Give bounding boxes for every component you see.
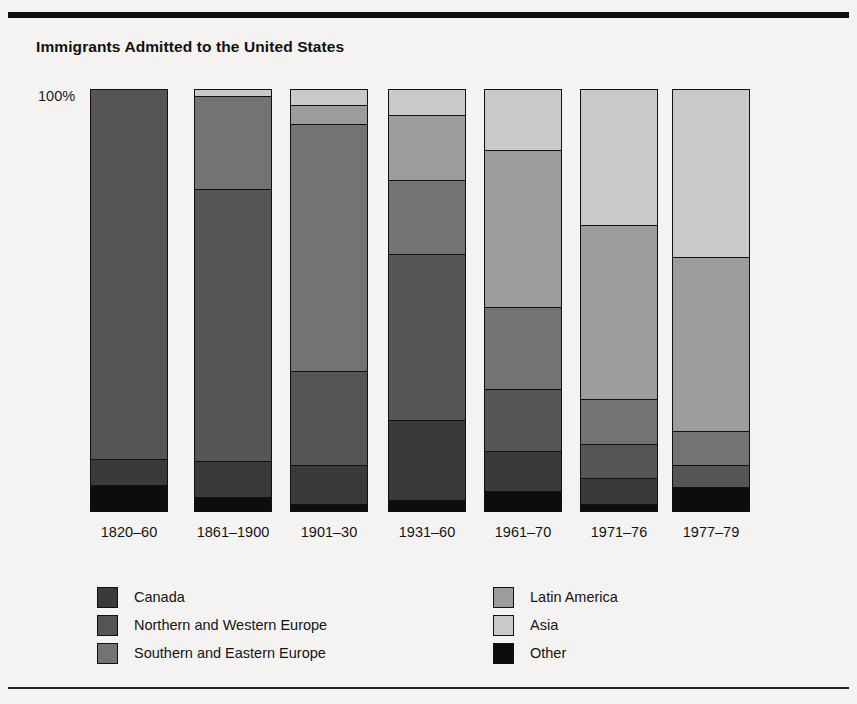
legend-swatch-other-icon (493, 643, 514, 664)
legend-item[interactable]: Other (493, 640, 618, 666)
legend-swatch-canada-icon (97, 587, 118, 608)
chart-legend: CanadaNorthern and Western EuropeSouther… (0, 0, 857, 704)
legend-item-label: Asia (530, 617, 558, 633)
legend-column-left: CanadaNorthern and Western EuropeSouther… (97, 584, 327, 668)
legend-item-label: Southern and Eastern Europe (134, 645, 326, 661)
legend-swatch-asia-icon (493, 615, 514, 636)
legend-item-label: Latin America (530, 589, 618, 605)
legend-swatch-southern-eastern-europe-icon (97, 643, 118, 664)
legend-item[interactable]: Canada (97, 584, 327, 610)
legend-item[interactable]: Southern and Eastern Europe (97, 640, 327, 666)
legend-item-label: Canada (134, 589, 185, 605)
legend-item-label: Other (530, 645, 566, 661)
legend-item[interactable]: Northern and Western Europe (97, 612, 327, 638)
legend-swatch-northern-western-europe-icon (97, 615, 118, 636)
legend-item[interactable]: Asia (493, 612, 618, 638)
figure-panel: Immigrants Admitted to the United States… (0, 0, 857, 704)
legend-item[interactable]: Latin America (493, 584, 618, 610)
legend-swatch-latin-america-icon (493, 587, 514, 608)
legend-item-label: Northern and Western Europe (134, 617, 327, 633)
legend-column-right: Latin AmericaAsiaOther (493, 584, 618, 668)
